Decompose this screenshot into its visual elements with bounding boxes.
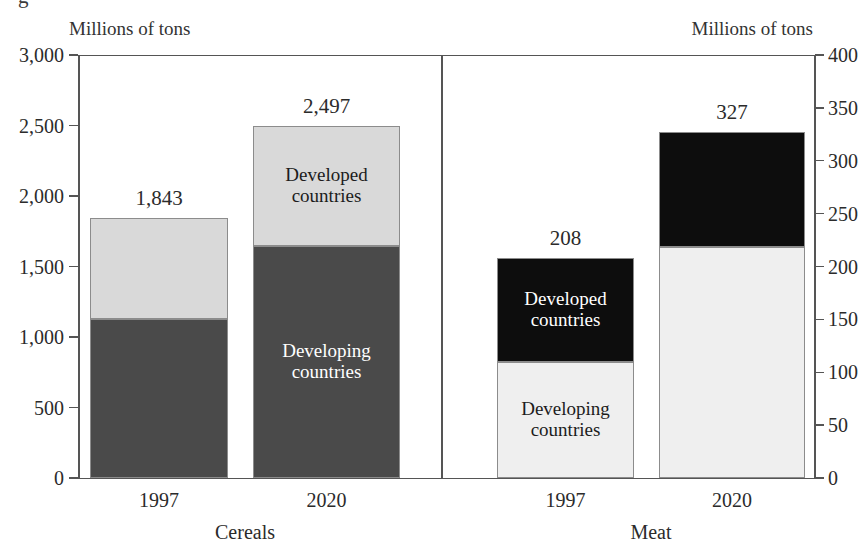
right-axis-tick-label: 300 (828, 151, 858, 171)
cropped-header-text: g (18, 0, 29, 9)
right-axis-tick (815, 424, 824, 425)
panel-group-label: Cereals (125, 521, 365, 544)
left-axis-tick (69, 477, 78, 478)
bottom-axis-line (78, 478, 816, 479)
left-axis-tick-label: 0 (54, 468, 64, 488)
right-axis-tick-label: 400 (828, 45, 858, 65)
right-axis-tick (815, 160, 824, 161)
x-axis-category-label: 1997 (497, 489, 634, 512)
bar-segment (659, 247, 805, 478)
left-axis-line (78, 55, 80, 479)
right-axis-tick-label: 350 (828, 98, 858, 118)
panel-group-label: Meat (531, 521, 771, 544)
bar-segment-annotation: Developingcountries (253, 340, 400, 383)
left-axis-tick-label: 1,000 (19, 327, 64, 347)
right-axis-tick (815, 266, 824, 267)
left-axis-tick-label: 2,500 (19, 116, 64, 136)
right-axis-tick-label: 250 (828, 204, 858, 224)
annotation-line-1: Developing (497, 398, 634, 419)
panel-divider-line (441, 55, 443, 479)
bar-segment (90, 319, 228, 478)
right-axis-tick (815, 372, 824, 373)
annotation-line-2: countries (253, 185, 400, 206)
annotation-line-1: Developing (253, 340, 400, 361)
right-axis-tick (815, 107, 824, 108)
right-axis-tick (815, 477, 824, 478)
annotation-line-2: countries (497, 419, 634, 440)
left-axis-tick (69, 266, 78, 267)
right-axis-tick (815, 319, 824, 320)
left-axis-tick (69, 407, 78, 408)
annotation-line-2: countries (497, 309, 634, 330)
x-axis-category-label: 1997 (90, 489, 228, 512)
right-axis-tick (815, 54, 824, 55)
right-axis-tick-label: 150 (828, 309, 858, 329)
bar-segment-annotation: Developedcountries (253, 164, 400, 207)
left-axis-tick-label: 3,000 (19, 45, 64, 65)
bar-total-label: 208 (497, 228, 634, 249)
left-axis-tick-label: 1,500 (19, 257, 64, 277)
bar-segment-annotation: Developingcountries (497, 398, 634, 441)
left-axis-tick-label: 500 (34, 398, 64, 418)
right-axis-tick-label: 50 (828, 415, 848, 435)
left-axis-tick (69, 54, 78, 55)
left-axis-tick (69, 125, 78, 126)
bar-total-label: 1,843 (90, 188, 228, 209)
x-axis-category-label: 2020 (659, 489, 805, 512)
bar-total-label: 327 (659, 102, 805, 123)
stacked-bar-chart-figure: g Millions of tons Millions of tons 0500… (0, 0, 867, 560)
right-axis-tick-label: 100 (828, 362, 858, 382)
left-axis-tick-label: 2,000 (19, 186, 64, 206)
top-frame-line (78, 55, 816, 56)
right-axis-tick-label: 0 (828, 468, 838, 488)
bar-segment-annotation: Developedcountries (497, 288, 634, 331)
left-axis-unit-caption: Millions of tons (69, 18, 190, 40)
annotation-line-1: Developed (253, 164, 400, 185)
left-axis-tick (69, 195, 78, 196)
left-axis-tick (69, 336, 78, 337)
bar-segment (90, 218, 228, 319)
annotation-line-1: Developed (497, 288, 634, 309)
bar-total-label: 2,497 (253, 96, 400, 117)
right-axis-unit-caption: Millions of tons (692, 18, 813, 40)
annotation-line-2: countries (253, 361, 400, 382)
x-axis-category-label: 2020 (253, 489, 400, 512)
right-axis-tick-label: 200 (828, 257, 858, 277)
right-axis-tick (815, 213, 824, 214)
bar-segment (659, 132, 805, 247)
